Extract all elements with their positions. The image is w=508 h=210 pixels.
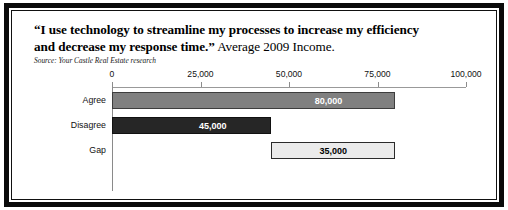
bar-gap[interactable]: 35,000: [271, 142, 395, 159]
bar-disagree[interactable]: 45,000: [112, 117, 271, 134]
source-attribution: Source: Your Castle Real Estate research: [34, 56, 480, 66]
x-axis-tick-mark-50000: [289, 82, 290, 87]
x-axis-tick-label-50000: 50,000: [276, 69, 302, 79]
x-axis-tick-mark-25000: [201, 82, 202, 87]
category-label-gap: Gap: [18, 145, 106, 155]
bar-row: Disagree 45,000: [12, 116, 500, 140]
slide-frame-inner-border: “I use technology to streamline my proce…: [11, 10, 497, 200]
bar-value-disagree: 45,000: [157, 121, 227, 131]
x-axis-tick-label-75000: 75,000: [364, 69, 390, 79]
x-axis-tick-label-25000: 25,000: [187, 69, 213, 79]
page-title-quote-line2: and decrease my response time.”: [34, 39, 215, 54]
page-title-line-1: “I use technology to streamline my proce…: [34, 21, 480, 38]
slide-title-block: “I use technology to streamline my proce…: [34, 21, 480, 66]
x-axis-tick-label-100000: 100,000: [450, 69, 481, 79]
x-axis-tick-mark-100000: [466, 82, 467, 87]
page-title-line-2: and decrease my response time.” Average …: [34, 38, 480, 55]
bar-value-gap: 35,000: [319, 146, 347, 156]
x-axis-tick-mark-75000: [378, 82, 379, 87]
category-label-disagree: Disagree: [18, 120, 106, 130]
bar-chart: 0 25,000 50,000 75,000 100,000 Agree 80,…: [12, 69, 500, 199]
bar-row: Gap 35,000: [12, 141, 500, 165]
category-label-agree: Agree: [18, 95, 106, 105]
bar-agree[interactable]: 80,000: [112, 92, 395, 109]
x-axis-tick-labels: 0 25,000 50,000 75,000 100,000: [12, 69, 500, 83]
slide-body: “I use technology to streamline my proce…: [12, 11, 496, 199]
bar-row: Agree 80,000: [12, 91, 500, 115]
page-title-quote-line1: “I use technology to streamline my proce…: [34, 22, 419, 37]
slide-frame: “I use technology to streamline my proce…: [4, 3, 504, 207]
page-subtitle-income: Average 2009 Income.: [217, 39, 335, 54]
x-axis-line: [112, 87, 466, 88]
bar-value-agree: 80,000: [165, 96, 343, 106]
x-axis-tick-label-0: 0: [110, 69, 115, 79]
